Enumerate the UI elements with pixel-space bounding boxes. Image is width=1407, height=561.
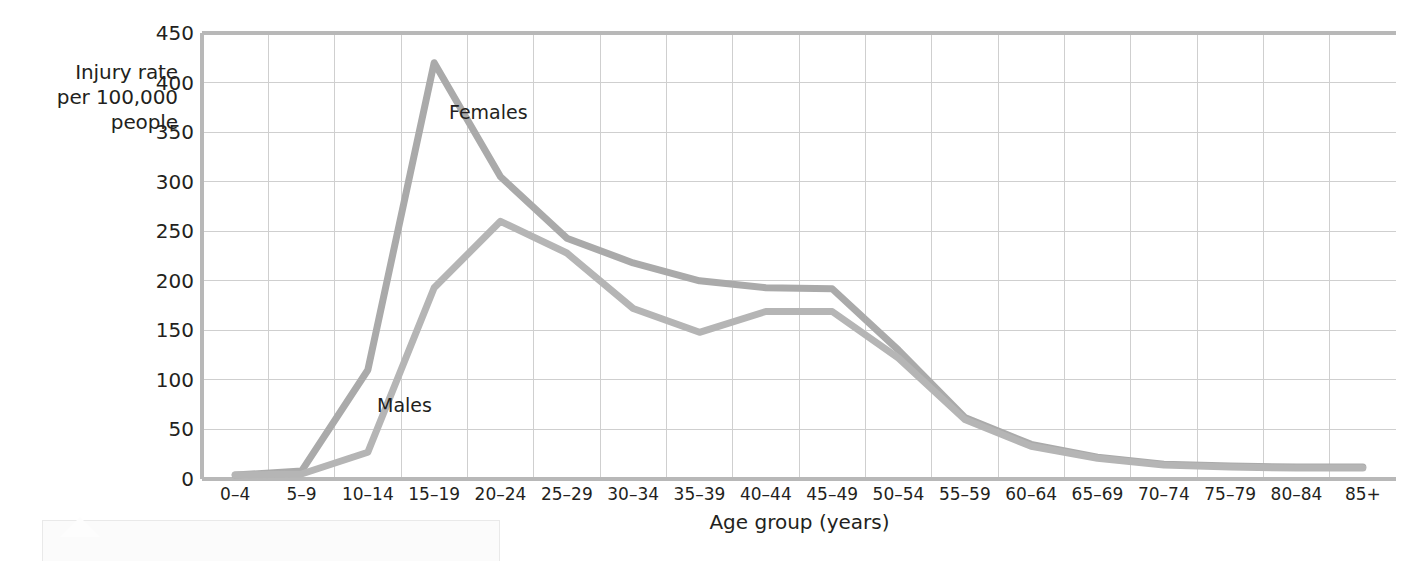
series-label-males: Males: [377, 394, 432, 416]
plot-area: [0, 0, 1407, 561]
series-label-females: Females: [449, 101, 528, 123]
footer-callout-box: [42, 520, 500, 561]
line-chart: Injury rate per 100,000 people 050100150…: [0, 0, 1407, 561]
